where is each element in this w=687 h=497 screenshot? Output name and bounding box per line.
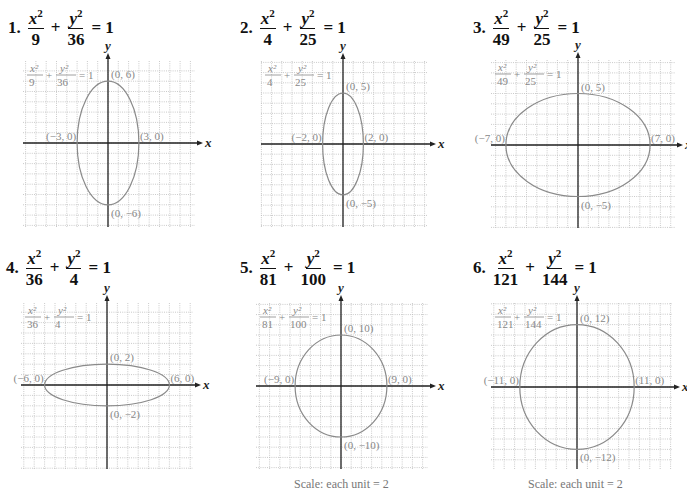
svg-text:81: 81 xyxy=(262,318,273,330)
y-arrow-icon xyxy=(341,53,346,59)
svg-text:y²: y² xyxy=(527,304,537,316)
x-axis-label: x xyxy=(437,378,445,393)
vertex-label-top: (0, 5) xyxy=(581,81,605,94)
svg-text:+: + xyxy=(279,311,285,323)
svg-text:49: 49 xyxy=(497,75,509,87)
svg-text:x²: x² xyxy=(29,62,39,74)
x-axis-label: x xyxy=(204,135,212,150)
svg-text:= 1: = 1 xyxy=(79,69,93,81)
grid-equation-label: x²81+y²100= 1 xyxy=(260,304,326,330)
y-axis-label: y xyxy=(336,280,344,295)
grid-equation-label: x²4+y²25= 1 xyxy=(265,62,331,88)
vertex-label-right: (2, 0) xyxy=(364,131,388,144)
svg-text:x²: x² xyxy=(497,61,507,73)
svg-text:+: + xyxy=(514,68,520,80)
vertex-label-top: (0, 5) xyxy=(346,80,370,93)
svg-text:y²: y² xyxy=(297,62,307,74)
svg-text:= 1: = 1 xyxy=(312,311,326,323)
vertex-label-right: (11, 0) xyxy=(635,374,664,387)
vertex-label-bottom: (0, −10) xyxy=(344,439,380,452)
x-arrow-icon xyxy=(674,385,680,390)
ellipse-graph-5: xyx²81+y²100= 1(0, 10)(0, −10)(−9, 0)(9,… xyxy=(256,280,445,469)
svg-text:36: 36 xyxy=(27,318,39,330)
y-axis-label: y xyxy=(572,280,580,295)
x-arrow-icon xyxy=(430,142,436,147)
svg-text:y²: y² xyxy=(57,304,67,316)
svg-text:121: 121 xyxy=(497,318,514,330)
y-arrow-icon xyxy=(339,295,344,301)
vertex-label-left: (−9, 0) xyxy=(264,373,294,386)
grid-equation-label: x²49+y²25= 1 xyxy=(495,61,561,87)
x-axis-label: x xyxy=(202,377,210,392)
svg-text:x²: x² xyxy=(497,304,507,316)
vertex-label-left: (−3, 0) xyxy=(46,130,76,143)
vertex-label-bottom: (0, −2) xyxy=(110,408,140,421)
svg-text:+: + xyxy=(284,69,290,81)
svg-text:144: 144 xyxy=(525,318,542,330)
grid-equation-label: x²36+y²4= 1 xyxy=(25,304,91,330)
svg-text:y²: y² xyxy=(527,61,537,73)
grid-equation-label: x²121+y²144= 1 xyxy=(495,304,561,330)
ellipse-graph-4: xyx²36+y²4= 1(0, 2)(0, −2)(−6, 0)(6, 0) xyxy=(14,280,210,469)
svg-text:= 1: = 1 xyxy=(77,311,91,323)
ellipse-graph-6: xyx²121+y²144= 1(0, 12)(0, −12)(−11, 0)(… xyxy=(484,280,687,469)
svg-text:25: 25 xyxy=(295,76,307,88)
vertex-label-top: (0, 12) xyxy=(580,312,610,325)
svg-text:x²: x² xyxy=(262,304,272,316)
svg-text:y²: y² xyxy=(59,62,69,74)
ellipse-graph-2: xyx²4+y²25= 1(0, 5)(0, −5)(−2, 0)(2, 0) xyxy=(261,38,445,227)
vertex-label-top: (0, 10) xyxy=(344,322,374,335)
vertex-label-left: (−6, 0) xyxy=(14,372,44,385)
svg-text:100: 100 xyxy=(290,318,307,330)
x-arrow-icon xyxy=(677,143,683,148)
svg-text:9: 9 xyxy=(29,76,35,88)
vertex-label-right: (7, 0) xyxy=(651,132,675,145)
ellipse-graph-3: xyx²49+y²25= 1(0, 5)(0, −5)(−7, 0)(7, 0) xyxy=(475,37,687,228)
x-axis-label: x xyxy=(437,136,445,151)
svg-text:25: 25 xyxy=(525,75,537,87)
y-arrow-icon xyxy=(105,295,110,301)
y-axis-label: y xyxy=(573,37,581,52)
grid xyxy=(491,303,672,469)
vertex-label-top: (0, 2) xyxy=(110,351,134,364)
y-axis-label: y xyxy=(103,38,111,53)
svg-text:+: + xyxy=(514,311,520,323)
svg-text:= 1: = 1 xyxy=(547,311,561,323)
svg-text:+: + xyxy=(46,69,52,81)
grid xyxy=(23,61,195,227)
vertex-label-bottom: (0, −12) xyxy=(580,451,616,464)
ellipse-graph-1: xyx²9+y²36= 1(0, 6)(0, −6)(−3, 0)(3, 0) xyxy=(23,38,212,227)
vertex-label-top: (0, 6) xyxy=(111,68,135,81)
svg-text:= 1: = 1 xyxy=(317,69,331,81)
vertex-label-left: (−2, 0) xyxy=(292,131,322,144)
vertex-label-right: (9, 0) xyxy=(388,373,412,386)
svg-text:x²: x² xyxy=(27,304,37,316)
vertex-label-left: (−7, 0) xyxy=(475,132,505,145)
x-axis-label: x xyxy=(681,379,687,394)
x-arrow-icon xyxy=(430,384,436,389)
x-arrow-icon xyxy=(197,141,203,146)
plot-1: xyx²9+y²36= 1(0, 6)(0, −6)(−3, 0)(3, 0)x… xyxy=(0,0,687,497)
vertex-label-bottom: (0, −5) xyxy=(581,199,611,212)
y-arrow-icon xyxy=(106,53,111,59)
y-axis-label: y xyxy=(102,280,110,295)
y-axis-label: y xyxy=(338,38,346,53)
y-arrow-icon xyxy=(576,52,581,58)
svg-text:x²: x² xyxy=(267,62,277,74)
svg-text:4: 4 xyxy=(55,318,61,330)
vertex-label-right: (3, 0) xyxy=(140,130,164,143)
svg-text:y²: y² xyxy=(292,304,302,316)
vertex-label-bottom: (0, −5) xyxy=(346,197,376,210)
svg-text:36: 36 xyxy=(57,76,69,88)
x-arrow-icon xyxy=(195,383,201,388)
vertex-label-right: (6, 0) xyxy=(170,372,194,385)
vertex-label-left: (−11, 0) xyxy=(484,374,519,387)
grid-equation-label: x²9+y²36= 1 xyxy=(27,62,93,88)
svg-text:+: + xyxy=(44,311,50,323)
svg-text:4: 4 xyxy=(267,76,273,88)
svg-text:= 1: = 1 xyxy=(547,68,561,80)
vertex-label-bottom: (0, −6) xyxy=(111,207,141,220)
y-arrow-icon xyxy=(575,295,580,301)
